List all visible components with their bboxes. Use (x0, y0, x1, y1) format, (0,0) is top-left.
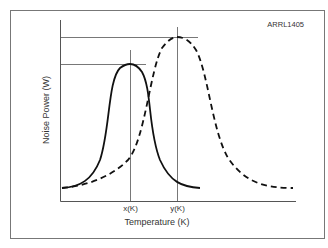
noise-power-diagram: ARRL1405 x(K) y(K) Temperature (K) Noise… (0, 0, 328, 248)
x-tick-label-x: x(K) (123, 204, 138, 213)
figure-border (11, 11, 325, 239)
figure-id-label: ARRL1405 (267, 20, 304, 29)
x-axis-label: Temperature (K) (124, 217, 189, 227)
x-tick-label-y: y(K) (170, 204, 185, 213)
y-axis-label: Noise Power (W) (41, 76, 51, 144)
solid-curve (62, 64, 200, 188)
